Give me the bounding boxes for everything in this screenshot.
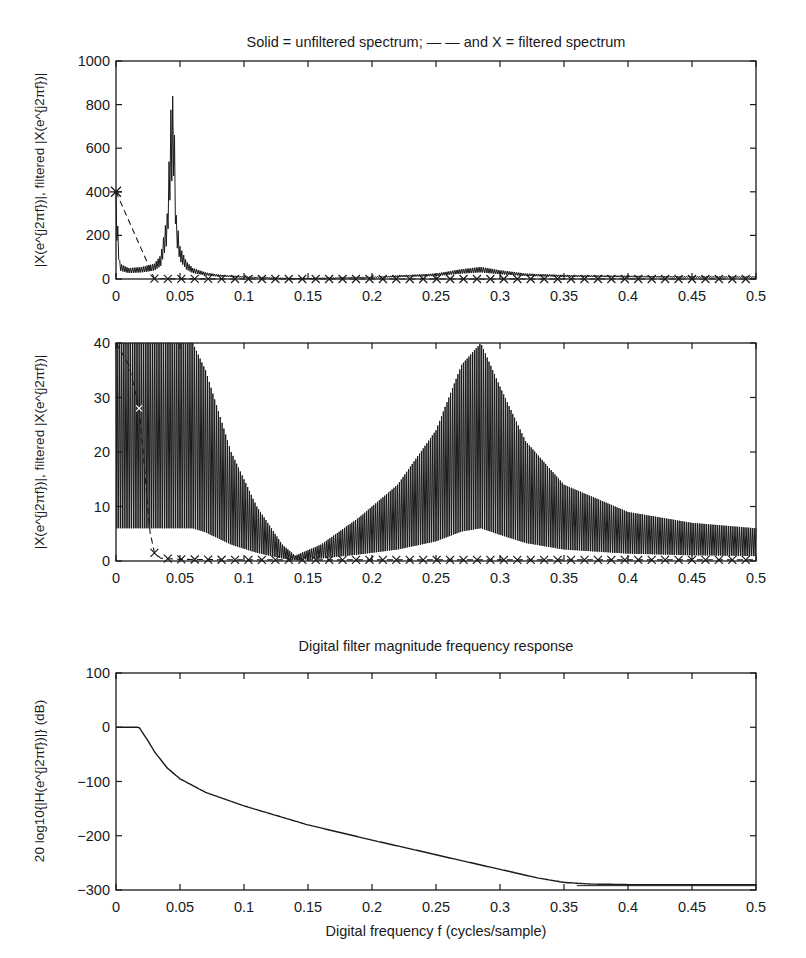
x-tick-label: 0.3 bbox=[490, 570, 510, 586]
plot2-ylabel: |X(e^{j2πf})|, filtered |X(e^{j2πf})| bbox=[32, 355, 47, 550]
plot1-series bbox=[110, 96, 756, 283]
plot2-series bbox=[116, 343, 756, 564]
y-tick-label: −300 bbox=[77, 882, 110, 898]
y-tick-label: 400 bbox=[86, 184, 110, 200]
plot3-axes: 00.050.10.150.20.250.30.350.40.450.5−300… bbox=[77, 665, 766, 915]
x-tick-label: 0.15 bbox=[294, 899, 322, 915]
plot3-series bbox=[116, 727, 756, 885]
plot3-ylabel: 20 log10{|H(e^{j2πf})|} (dB) bbox=[32, 700, 47, 862]
x-tick-label: 0.4 bbox=[618, 570, 638, 586]
y-tick-label: −100 bbox=[77, 774, 110, 790]
x-marker bbox=[150, 549, 158, 557]
y-tick-label: 800 bbox=[86, 97, 110, 113]
x-tick-label: 0.45 bbox=[678, 899, 706, 915]
unfiltered-spectrum-line bbox=[116, 343, 756, 560]
x-tick-label: 0.1 bbox=[234, 288, 254, 304]
x-tick-label: 0 bbox=[112, 288, 120, 304]
x-tick-label: 0.05 bbox=[166, 570, 194, 586]
x-tick-label: 0.05 bbox=[166, 899, 194, 915]
plot-filter-response: Digital filter magnitude frequency respo… bbox=[32, 638, 766, 939]
x-tick-label: 0.25 bbox=[422, 570, 450, 586]
y-tick-label: 40 bbox=[94, 335, 110, 351]
plot3-xlabel: Digital frequency f (cycles/sample) bbox=[326, 923, 547, 939]
y-tick-label: 10 bbox=[94, 499, 110, 515]
x-tick-label: 0.45 bbox=[678, 288, 706, 304]
plot1-ylabel: |X(e^{j2πf})|, filtered |X(e^{j2πf})| bbox=[32, 73, 47, 268]
x-tick-label: 0.45 bbox=[678, 570, 706, 586]
y-tick-label: 1000 bbox=[78, 53, 110, 69]
x-tick-label: 0.2 bbox=[362, 288, 382, 304]
x-tick-label: 0.5 bbox=[746, 288, 766, 304]
plot3-frame bbox=[116, 673, 756, 890]
x-tick-label: 0.4 bbox=[618, 899, 638, 915]
y-tick-label: 100 bbox=[86, 665, 110, 681]
x-tick-label: 0.05 bbox=[166, 288, 194, 304]
y-tick-label: 20 bbox=[94, 444, 110, 460]
plot-zoomed-spectrum: 00.050.10.150.20.250.30.350.40.450.50102… bbox=[32, 335, 766, 586]
x-tick-label: 0.15 bbox=[294, 288, 322, 304]
x-tick-label: 0 bbox=[112, 899, 120, 915]
y-tick-label: 30 bbox=[94, 390, 110, 406]
x-tick-label: 0.3 bbox=[490, 899, 510, 915]
y-tick-label: −200 bbox=[77, 828, 110, 844]
y-tick-label: 0 bbox=[102, 553, 110, 569]
y-tick-label: 200 bbox=[86, 227, 110, 243]
figure: Solid = unfiltered spectrum; — — and X =… bbox=[0, 0, 806, 958]
x-tick-label: 0 bbox=[112, 570, 120, 586]
y-tick-label: 0 bbox=[102, 271, 110, 287]
x-tick-label: 0.25 bbox=[422, 288, 450, 304]
plot1-axes: 00.050.10.150.20.250.30.350.40.450.50200… bbox=[78, 53, 766, 304]
x-tick-label: 0.4 bbox=[618, 288, 638, 304]
unfiltered-spectrum-line bbox=[116, 96, 756, 279]
plot1-frame bbox=[116, 61, 756, 279]
x-tick-label: 0.1 bbox=[234, 899, 254, 915]
x-tick-label: 0.5 bbox=[746, 570, 766, 586]
x-tick-label: 0.2 bbox=[362, 899, 382, 915]
y-tick-label: 600 bbox=[86, 140, 110, 156]
plot-unfiltered-vs-filtered: Solid = unfiltered spectrum; — — and X =… bbox=[32, 34, 766, 304]
filter-response-line bbox=[116, 727, 756, 884]
x-tick-label: 0.35 bbox=[550, 288, 578, 304]
x-tick-label: 0.35 bbox=[550, 570, 578, 586]
plot3-title: Digital filter magnitude frequency respo… bbox=[299, 638, 574, 654]
y-tick-label: 0 bbox=[102, 719, 110, 735]
filtered-spectrum-line bbox=[116, 192, 756, 279]
x-tick-label: 0.1 bbox=[234, 570, 254, 586]
x-tick-label: 0.2 bbox=[362, 570, 382, 586]
x-tick-label: 0.25 bbox=[422, 899, 450, 915]
x-tick-label: 0.15 bbox=[294, 570, 322, 586]
plot1-title: Solid = unfiltered spectrum; — — and X =… bbox=[247, 34, 626, 50]
x-tick-label: 0.3 bbox=[490, 288, 510, 304]
x-tick-label: 0.5 bbox=[746, 899, 766, 915]
x-tick-label: 0.35 bbox=[550, 899, 578, 915]
